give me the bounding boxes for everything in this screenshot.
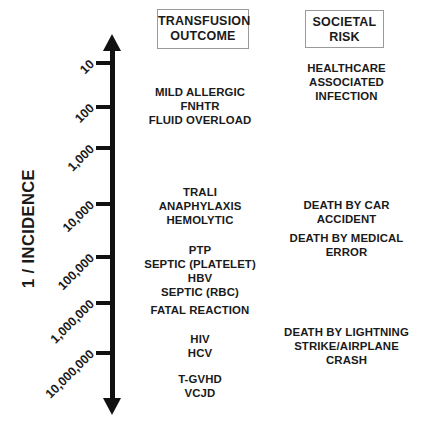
entry-group: PTPSEPTIC (PLATELET)HBVSEPTIC (RBC) [125,243,275,299]
entry-label: TRALI [125,185,275,199]
entry-label: VCJD [125,386,275,400]
entry-label: PTP [125,243,275,257]
entry-label: T-GVHD [125,372,275,386]
incidence-comparison-figure: 1 / INCIDENCE 101001,00010,000100,0001,0… [0,0,421,423]
entry-label: ERROR [272,245,421,259]
entry-group: DEATH BY MEDICALERROR [272,231,421,259]
column-header-societal-line2: RISK [306,30,383,45]
entry-label: FLUID OVERLOAD [125,113,275,127]
axis-tick-mark [96,146,111,150]
axis-arrow-down-icon [103,398,121,415]
entry-label: HEALTHCARE [272,61,421,75]
entry-label: STRIKE/AIRPLANE [272,339,421,353]
entry-label: DEATH BY MEDICAL [272,231,421,245]
entry-label: HIV [125,332,275,346]
entry-label: ASSOCIATED [272,75,421,89]
column-header-transfusion-line1: TRANSFUSION [158,14,248,29]
entry-label: HBV [125,271,275,285]
entry-label: HEMOLYTIC [125,213,275,227]
entry-label: MILD ALLERGIC [125,85,275,99]
entry-group: DEATH BY CARACCIDENT [272,198,421,226]
entry-label: DEATH BY CAR [272,198,421,212]
entry-group: T-GVHDVCJD [125,372,275,400]
column-header-transfusion-line2: OUTCOME [158,29,248,44]
column-header-societal: SOCIETAL RISK [305,10,384,48]
axis-line [110,48,115,403]
entry-label: ANAPHYLAXIS [125,199,275,213]
axis-tick-mark [96,105,111,109]
entry-group: TRALIANAPHYLAXISHEMOLYTIC [125,185,275,227]
entry-label: FNHTR [125,99,275,113]
column-header-societal-line1: SOCIETAL [306,15,383,30]
entry-label: INFECTION [272,89,421,103]
entry-label: HCV [125,346,275,360]
entry-group: MILD ALLERGICFNHTRFLUID OVERLOAD [125,85,275,127]
entry-group: DEATH BY LIGHTNINGSTRIKE/AIRPLANECRASH [272,325,421,367]
axis-tick-mark [96,202,111,206]
axis-tick-mark [96,351,111,355]
axis-tick-mark [96,255,111,259]
entry-label: SEPTIC (RBC) [125,285,275,299]
entry-label: DEATH BY LIGHTNING [272,325,421,339]
entry-label: SEPTIC (PLATELET) [125,257,275,271]
column-header-transfusion: TRANSFUSION OUTCOME [157,9,249,49]
entry-label: ACCIDENT [272,212,421,226]
axis-tick-mark [96,301,111,305]
entry-group: HEALTHCAREASSOCIATEDINFECTION [272,61,421,103]
entry-label: CRASH [272,353,421,367]
entry-label: FATAL REACTION [125,303,275,317]
entry-group: FATAL REACTION [125,303,275,317]
entry-group: HIVHCV [125,332,275,360]
axis-arrow-up-icon [103,34,121,51]
axis-tick-mark [96,61,111,65]
